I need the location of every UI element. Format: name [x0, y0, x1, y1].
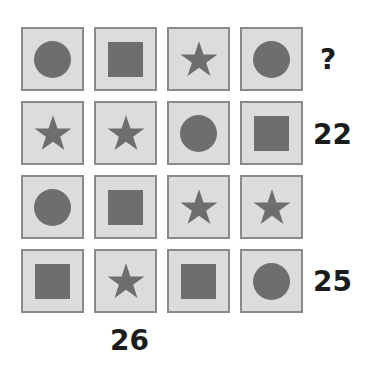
- grid-cell: [94, 27, 157, 91]
- star-icon: [107, 114, 145, 152]
- star-icon: [180, 40, 218, 78]
- grid-cell: [94, 175, 157, 239]
- grid-cell: [167, 249, 230, 313]
- circle-icon: [34, 41, 71, 78]
- circle-icon: [180, 115, 217, 152]
- grid-cell: [167, 101, 230, 165]
- circle-icon: [34, 189, 71, 226]
- star-icon: [34, 114, 72, 152]
- circle-icon: [253, 263, 290, 300]
- grid-cell: [240, 27, 303, 91]
- star-icon: [107, 262, 145, 300]
- circle-icon: [253, 41, 290, 78]
- grid-cell: [21, 175, 84, 239]
- square-icon: [108, 42, 143, 77]
- grid-cell: [94, 249, 157, 313]
- grid-cell: [21, 101, 84, 165]
- grid-cell: [94, 101, 157, 165]
- grid-cell: [240, 175, 303, 239]
- square-icon: [35, 264, 70, 299]
- grid-cell: [21, 27, 84, 91]
- grid-cell: [21, 249, 84, 313]
- column-2-clue: 26: [110, 327, 149, 355]
- row-2-clue: 22: [313, 121, 352, 149]
- star-icon: [180, 188, 218, 226]
- row-1-clue: ?: [320, 46, 336, 74]
- grid-cell: [167, 175, 230, 239]
- square-icon: [108, 190, 143, 225]
- square-icon: [181, 264, 216, 299]
- square-icon: [254, 116, 289, 151]
- grid-cell: [240, 249, 303, 313]
- grid-cell: [167, 27, 230, 91]
- grid-cell: [240, 101, 303, 165]
- star-icon: [253, 188, 291, 226]
- row-4-clue: 25: [313, 268, 352, 296]
